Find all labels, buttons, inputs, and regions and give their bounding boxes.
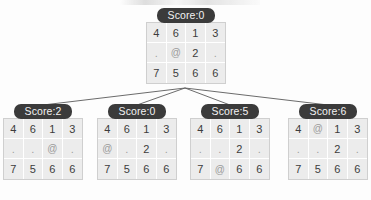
board-cell[interactable]: 6: [63, 159, 82, 179]
board-cell[interactable]: 6: [137, 159, 157, 179]
board-cell[interactable]: 5: [167, 63, 187, 83]
board-cell[interactable]: 1: [137, 119, 157, 139]
board-cell[interactable]: @: [167, 43, 187, 63]
board-cell[interactable]: 4: [98, 119, 118, 139]
board-cell[interactable]: @: [98, 139, 118, 159]
board-cell[interactable]: 7: [289, 159, 309, 179]
board-grid: 4613..2.7@66: [190, 118, 270, 180]
board-cell[interactable]: 6: [328, 159, 348, 179]
board-cell[interactable]: 7: [191, 159, 211, 179]
board-cell[interactable]: 4: [147, 23, 167, 43]
board-row: 7566: [4, 159, 82, 179]
board-cell[interactable]: 2: [328, 139, 348, 159]
board-cell[interactable]: @: [211, 159, 231, 179]
board-cell[interactable]: 6: [167, 23, 187, 43]
board-cell[interactable]: .: [206, 43, 225, 63]
board-cell[interactable]: 3: [157, 119, 176, 139]
board-cell[interactable]: .: [211, 139, 231, 159]
board-grid: 4613..@.7566: [3, 118, 83, 180]
board-cell[interactable]: 2: [186, 43, 206, 63]
board-cell[interactable]: .: [63, 139, 82, 159]
board-cell[interactable]: 2: [137, 139, 157, 159]
board-cell[interactable]: 6: [206, 63, 225, 83]
board-cell[interactable]: 6: [250, 159, 269, 179]
board-cell[interactable]: 7: [98, 159, 118, 179]
board-cell[interactable]: 5: [24, 159, 44, 179]
board-row: ..2.: [191, 139, 269, 159]
score-label: Score:0: [108, 104, 166, 119]
board-cell[interactable]: @: [43, 139, 63, 159]
tree-edge: [43, 88, 185, 105]
board-cell[interactable]: 6: [186, 63, 206, 83]
diagram-canvas: Score:04613.@2.7566 Score:24613..@.7566 …: [0, 0, 371, 200]
board-row: 7@66: [191, 159, 269, 179]
board-row: 4613: [147, 23, 225, 43]
board-cell[interactable]: .: [289, 139, 309, 159]
board-grid: 4613.@2.7566: [146, 22, 226, 84]
board-cell[interactable]: 1: [328, 119, 348, 139]
board-cell[interactable]: 1: [186, 23, 206, 43]
board-cell[interactable]: 5: [309, 159, 329, 179]
board-cell[interactable]: @: [309, 119, 329, 139]
board-row: @.2.: [98, 139, 176, 159]
board-row: 7566: [147, 63, 225, 83]
board-cell[interactable]: .: [147, 43, 167, 63]
board-row: 7566: [289, 159, 367, 179]
board-cell[interactable]: 4: [191, 119, 211, 139]
board-cell[interactable]: 5: [118, 159, 138, 179]
board-cell[interactable]: .: [250, 139, 269, 159]
board-cell[interactable]: .: [118, 139, 138, 159]
board-grid: 4613@.2.7566: [97, 118, 177, 180]
board-cell[interactable]: 3: [348, 119, 367, 139]
score-label: Score:6: [299, 104, 357, 119]
board-row: 4613: [191, 119, 269, 139]
score-label: Score:2: [14, 104, 72, 119]
board-row: ..@.: [4, 139, 82, 159]
board-row: 4613: [98, 119, 176, 139]
board-row: ..2.: [289, 139, 367, 159]
board-cell[interactable]: 6: [230, 159, 250, 179]
board-cell[interactable]: 3: [63, 119, 82, 139]
board-row: .@2.: [147, 43, 225, 63]
board-cell[interactable]: 6: [157, 159, 176, 179]
board-cell[interactable]: 7: [147, 63, 167, 83]
board-row: 4@13: [289, 119, 367, 139]
score-label: Score:0: [157, 8, 215, 23]
board-cell[interactable]: 3: [206, 23, 225, 43]
board-cell[interactable]: 4: [4, 119, 24, 139]
board-cell[interactable]: 6: [118, 119, 138, 139]
board-row: 4613: [4, 119, 82, 139]
board-cell[interactable]: 1: [230, 119, 250, 139]
board-grid: 4@13..2.7566: [288, 118, 368, 180]
board-cell[interactable]: .: [4, 139, 24, 159]
board-cell[interactable]: 6: [348, 159, 367, 179]
board-cell[interactable]: 4: [289, 119, 309, 139]
board-cell[interactable]: 6: [24, 119, 44, 139]
score-label: Score:5: [201, 104, 259, 119]
board-cell[interactable]: .: [309, 139, 329, 159]
board-cell[interactable]: 6: [43, 159, 63, 179]
board-cell[interactable]: 2: [230, 139, 250, 159]
board-cell[interactable]: .: [191, 139, 211, 159]
board-cell[interactable]: .: [24, 139, 44, 159]
board-cell[interactable]: 3: [250, 119, 269, 139]
board-row: 7566: [98, 159, 176, 179]
board-cell[interactable]: 7: [4, 159, 24, 179]
board-cell[interactable]: 1: [43, 119, 63, 139]
board-cell[interactable]: .: [348, 139, 367, 159]
board-cell[interactable]: .: [157, 139, 176, 159]
board-cell[interactable]: 6: [211, 119, 231, 139]
